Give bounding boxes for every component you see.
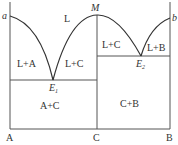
liquidus-a-e1 (10, 16, 53, 80)
region-l-plus-c-right: L+C (102, 39, 121, 50)
label-b: b (172, 12, 177, 23)
label-m: M (90, 2, 100, 13)
region-a-plus-c: A+C (40, 100, 60, 111)
region-l-plus-c-left: L+C (65, 58, 84, 69)
axis-label-a: A (6, 132, 14, 143)
region-c-plus-b: C+B (120, 98, 139, 109)
axis-label-b: B (166, 132, 173, 143)
region-l-plus-b: L+B (147, 42, 166, 53)
region-l-plus-a: L+A (17, 58, 37, 69)
label-a: a (2, 10, 7, 21)
axis-label-c: C (93, 132, 100, 143)
phase-diagram: a b M L L+A L+C L+C L+B A+C C+B E1 E2 A … (0, 0, 178, 145)
label-e2: E2 (135, 58, 145, 70)
label-e1: E1 (48, 82, 58, 94)
region-liquid: L (64, 13, 70, 24)
